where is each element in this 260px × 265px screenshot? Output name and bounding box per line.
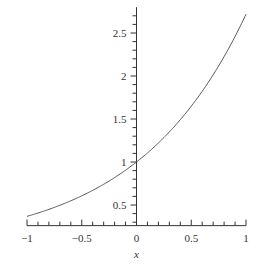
x-tick-label: 1: [243, 232, 249, 244]
x-axis-label: x: [133, 248, 139, 260]
x-tick-label: −1: [21, 232, 33, 244]
x-tick-label: 0: [134, 232, 140, 244]
x-tick-label: 0.5: [184, 232, 198, 244]
y-tick-label: 2.5: [113, 27, 127, 39]
y-tick-label: 2: [121, 70, 127, 82]
y-tick-label: 1.5: [113, 113, 127, 125]
y-tick-label: 1: [121, 156, 127, 168]
plot-area: −1−0.500.51x0.511.522.5: [0, 0, 260, 265]
x-tick-label: −0.5: [72, 232, 92, 244]
y-tick-label: 0.5: [113, 199, 127, 211]
